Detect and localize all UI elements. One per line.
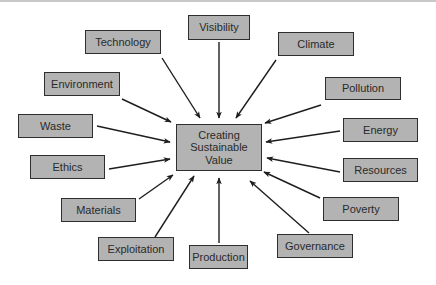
node-label: Materials xyxy=(76,204,121,217)
node-governance: Governance xyxy=(277,234,353,258)
node-label: Climate xyxy=(297,38,334,51)
node-label: Production xyxy=(192,251,245,264)
node-resources: Resources xyxy=(343,158,418,182)
node-label: Exploitation xyxy=(108,243,165,256)
node-materials: Materials xyxy=(61,198,136,222)
arrow-pollution-to-center xyxy=(265,105,321,123)
node-climate: Climate xyxy=(278,32,354,56)
node-waste: Waste xyxy=(18,114,93,138)
arrow-exploitation-to-center xyxy=(155,176,194,237)
node-label: Governance xyxy=(285,240,345,253)
center-node-creating-sustainable-value: Creating Sustainable Value xyxy=(176,124,262,171)
node-energy: Energy xyxy=(343,118,418,142)
node-production: Production xyxy=(189,245,248,269)
center-label-line-3: Value xyxy=(205,154,232,167)
node-technology: Technology xyxy=(85,30,161,54)
arrow-energy-to-center xyxy=(266,131,340,142)
node-poverty: Poverty xyxy=(323,197,399,221)
node-label: Waste xyxy=(40,120,71,133)
arrow-ethics-to-center xyxy=(109,159,170,169)
node-exploitation: Exploitation xyxy=(98,237,174,261)
node-visibility: Visibility xyxy=(188,15,250,40)
node-label: Environment xyxy=(51,78,113,91)
node-label: Visibility xyxy=(199,21,239,34)
arrow-materials-to-center xyxy=(139,175,173,199)
node-label: Poverty xyxy=(342,203,379,216)
arrow-climate-to-center xyxy=(236,60,276,118)
arrow-resources-to-center xyxy=(267,158,340,172)
arrow-environment-to-center xyxy=(122,99,171,122)
arrow-technology-to-center xyxy=(162,58,200,118)
center-label-line-2: Sustainable xyxy=(190,141,248,154)
node-label: Energy xyxy=(363,124,398,137)
arrow-waste-to-center xyxy=(97,126,170,142)
node-pollution: Pollution xyxy=(325,77,401,100)
arrow-poverty-to-center xyxy=(264,172,320,198)
node-label: Resources xyxy=(354,164,407,177)
node-label: Ethics xyxy=(53,161,83,174)
node-ethics: Ethics xyxy=(30,155,105,179)
node-environment: Environment xyxy=(44,72,120,96)
node-label: Pollution xyxy=(342,82,384,95)
center-label-line-1: Creating xyxy=(198,129,240,142)
node-label: Technology xyxy=(95,36,151,49)
